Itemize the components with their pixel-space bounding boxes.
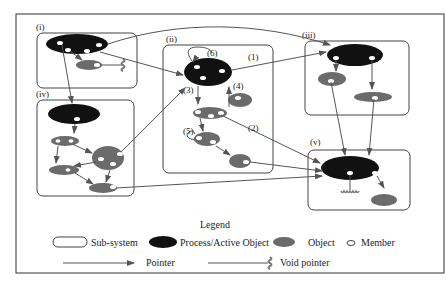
legend-subsystem-label: Sub-system <box>91 237 138 248</box>
member-icon <box>347 241 355 246</box>
legend-process-label: Process/Active Object <box>180 237 269 248</box>
annotation-6: (6) <box>207 48 218 58</box>
annotation-5: (5) <box>183 126 194 136</box>
void-pointer-icon <box>122 59 125 71</box>
legend-member-label: Member <box>361 237 396 248</box>
subsystem-i-label: (i) <box>36 22 45 32</box>
annotation-1: (1) <box>248 52 259 62</box>
legend-object-label: Object <box>308 237 335 248</box>
subsystem-v: (v) <box>308 137 410 210</box>
subsystem-icon <box>53 237 87 247</box>
void-pointer-icon <box>269 257 272 269</box>
legend-title: Legend <box>200 219 230 230</box>
subsystem-iii: (iii) <box>302 30 409 115</box>
subsystem-ii-label: (ii) <box>166 34 177 44</box>
subsystem-i: (i) <box>36 22 137 88</box>
annotation-2: (2) <box>248 123 259 133</box>
diagram-canvas: (i) (iv) (ii) <box>0 0 446 286</box>
annotation-4: (4) <box>233 81 244 91</box>
legend-void-pointer-label: Void pointer <box>280 257 330 268</box>
subsystem-iv-label: (iv) <box>36 89 49 99</box>
legend: Legend Sub-system Process/Active Object … <box>53 219 396 269</box>
process-active-object-icon <box>149 236 177 248</box>
annotation-3: (3) <box>183 85 194 95</box>
subsystem-iv: (iv) <box>36 89 134 196</box>
legend-pointer-label: Pointer <box>146 257 176 268</box>
void-pointer-icon <box>341 191 359 193</box>
object-icon <box>273 237 295 247</box>
subsystem-v-label: (v) <box>310 137 321 147</box>
